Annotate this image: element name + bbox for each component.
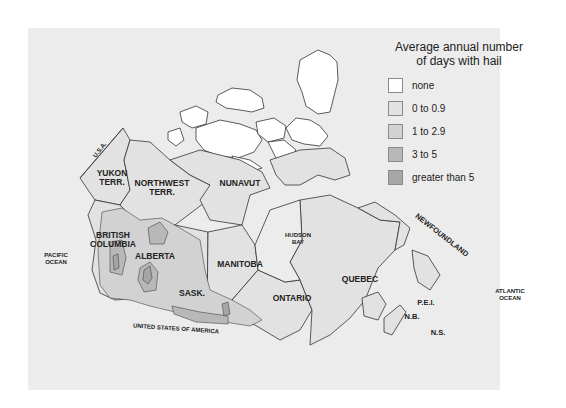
label-pacific-ocean: PACIFICOCEAN [44, 252, 68, 266]
swatch-1-to-2.9 [388, 124, 403, 139]
label-bc: BRITISHCOLUMBIA [90, 231, 136, 249]
region-newfoundland [412, 250, 440, 290]
legend-item-3-to-5: 3 to 5 [384, 143, 534, 166]
legend-title: Average annual number of days with hail [384, 40, 534, 68]
label-nwt: NORTHWESTTERR. [135, 179, 190, 197]
legend-label: greater than 5 [412, 172, 474, 183]
swatch-3-to-5 [388, 147, 403, 162]
legend-item-1-to-2.9: 1 to 2.9 [384, 120, 534, 143]
label-hudson-line1: HUDSON [285, 232, 311, 238]
label-pacific-line2: OCEAN [45, 259, 67, 265]
legend-label: 3 to 5 [412, 149, 437, 160]
label-ontario: ONTARIO [273, 294, 312, 303]
label-yukon-line2: TERR. [99, 177, 125, 187]
label-manitoba: MANITOBA [217, 260, 263, 269]
label-alberta: ALBERTA [135, 252, 175, 261]
label-atlantic-ocean: ATLANTICOCEAN [495, 288, 525, 302]
swatch-greater-than-5 [388, 170, 403, 185]
swatch-none [388, 78, 403, 93]
legend-title-line2: of days with hail [416, 54, 501, 68]
label-nwt-line2: TERR. [149, 187, 175, 197]
region-ns [384, 305, 406, 335]
legend-title-line1: Average annual number [395, 40, 523, 54]
label-atlantic-line2: OCEAN [499, 295, 521, 301]
label-pacific-line1: PACIFIC [44, 252, 68, 258]
legend-item-greater-than-5: greater than 5 [384, 166, 534, 189]
legend: Average annual number of days with hail … [384, 40, 534, 189]
label-atlantic-line1: ATLANTIC [495, 288, 525, 294]
region-yukon [80, 128, 130, 205]
legend-item-0-to-0.9: 0 to 0.9 [384, 97, 534, 120]
label-nunavut: NUNAVUT [220, 179, 261, 188]
label-nb: N.B. [405, 312, 420, 321]
legend-label: 0 to 0.9 [412, 103, 445, 114]
legend-item-none: none [384, 74, 534, 97]
label-yukon: YUKONTERR. [97, 169, 128, 187]
label-bc-line2: COLUMBIA [90, 239, 136, 249]
label-pei: P.E.I. [417, 298, 434, 307]
label-sask: SASK. [179, 289, 205, 298]
legend-label: none [412, 80, 434, 91]
label-hudson-bay: HUDSONBAY [285, 232, 311, 246]
label-ns: N.S. [431, 328, 446, 337]
legend-label: 1 to 2.9 [412, 126, 445, 137]
swatch-0-to-0.9 [388, 101, 403, 116]
label-quebec: QUEBEC [342, 275, 378, 284]
label-hudson-line2: BAY [292, 239, 304, 245]
